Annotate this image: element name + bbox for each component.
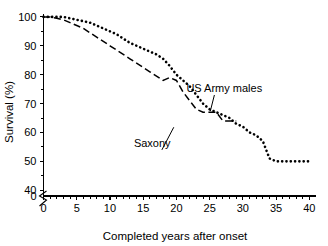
y-tick-label: 100 — [18, 11, 36, 23]
y-tick-label: 80 — [24, 69, 36, 81]
y-axis-tick-labels: 405060708090100 — [18, 11, 36, 196]
x-tick-label: 5 — [74, 202, 80, 214]
survival-chart-canvas: 405060708090100 0 Survival (%) 051015202… — [0, 0, 328, 246]
y-tick-label: 60 — [24, 126, 36, 138]
series-line-saxony — [44, 17, 310, 161]
x-tick-label: 40 — [303, 202, 315, 214]
x-tick-label: 25 — [204, 202, 216, 214]
x-axis-group: 0510152025303540 Completed years after o… — [40, 196, 316, 242]
x-tick-label: 20 — [170, 202, 182, 214]
x-tick-label: 30 — [237, 202, 249, 214]
x-tick-label: 0 — [40, 202, 46, 214]
leader-line-us-army-males — [210, 95, 214, 111]
x-tick-label: 15 — [137, 202, 149, 214]
x-axis-tick-labels: 0510152025303540 — [40, 202, 315, 214]
annotation-label-us-army-males: US Army males — [186, 82, 262, 94]
series-line-us-army-males — [44, 17, 237, 121]
annotations-group: US Army males Saxony — [134, 82, 263, 150]
x-tick-label: 10 — [104, 202, 116, 214]
x-tick-label: 35 — [270, 202, 282, 214]
x-axis-title: Completed years after onset — [103, 230, 248, 242]
y-axis-group: 405060708090100 0 Survival (%) — [3, 11, 47, 206]
series-group — [44, 17, 310, 161]
y-tick-label: 50 — [24, 155, 36, 167]
annotation-label-saxony: Saxony — [134, 137, 171, 149]
y-tick-label: 70 — [24, 98, 36, 110]
survival-chart-figure: 405060708090100 0 Survival (%) 051015202… — [0, 0, 328, 246]
y-axis-zero-label: 0 — [30, 190, 36, 202]
y-axis-major-ticks — [40, 17, 44, 190]
y-tick-label: 90 — [24, 40, 36, 52]
y-axis-title: Survival (%) — [3, 81, 15, 143]
